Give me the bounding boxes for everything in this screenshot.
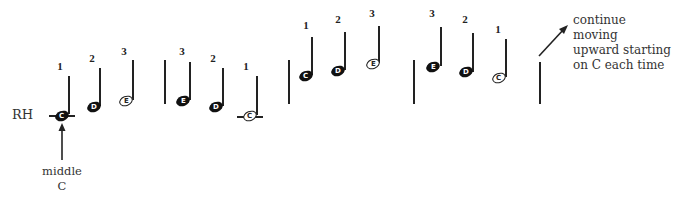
note-stem: [311, 37, 313, 75]
note-stem: [99, 68, 101, 106]
note-stem: [505, 39, 507, 77]
finger-number: 1: [243, 60, 249, 72]
continue-line-2: upward starting: [573, 43, 673, 58]
finger-number: 3: [179, 45, 185, 57]
finger-number: 2: [462, 13, 468, 25]
finger-number: 1: [57, 60, 63, 72]
up-arrow-icon: [56, 122, 68, 162]
finger-number: 3: [429, 7, 435, 19]
finger-number: 2: [335, 13, 341, 25]
barline: [413, 60, 415, 104]
note-head-e: E: [425, 60, 442, 75]
finger-number: 3: [369, 7, 375, 19]
barline: [539, 62, 541, 104]
right-hand-label: RH: [12, 107, 33, 122]
up-right-arrow-icon: [535, 22, 575, 62]
continue-line-3: on C each time: [573, 58, 673, 73]
middle-c-line-1: middle: [42, 164, 82, 179]
barline: [164, 60, 166, 104]
middle-c-label: middle C: [42, 164, 82, 194]
note-stem: [440, 27, 442, 66]
note-stem: [256, 76, 258, 115]
finger-number: 3: [121, 45, 127, 57]
continue-line-1: continue moving: [573, 13, 673, 43]
note-stem: [344, 32, 346, 70]
barline: [288, 60, 290, 104]
note-stem: [222, 68, 224, 106]
note-stem: [68, 76, 70, 114]
note-stem: [189, 62, 191, 100]
note-stem: [132, 60, 134, 100]
middle-c-line-2: C: [42, 179, 82, 194]
finger-number: 1: [495, 23, 501, 35]
finger-number: 2: [210, 52, 216, 64]
continue-instruction: continue moving upward starting on C eac…: [573, 13, 673, 73]
note-stem: [378, 26, 380, 63]
note-stem: [472, 33, 474, 72]
finger-number: 2: [89, 52, 95, 64]
finger-number: 1: [303, 19, 309, 31]
